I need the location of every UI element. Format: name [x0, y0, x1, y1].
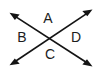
angle-label-top-a: A: [43, 10, 53, 26]
angle-label-left-b: B: [17, 29, 26, 45]
angle-label-right-d: D: [71, 29, 81, 45]
angle-diagram-figure: A B C D: [0, 0, 101, 73]
diagram-canvas: A B C D: [0, 0, 101, 73]
angle-label-bottom-c: C: [45, 46, 55, 62]
